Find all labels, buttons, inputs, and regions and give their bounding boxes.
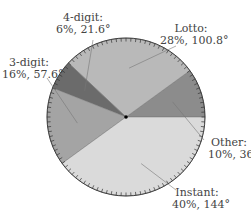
center-dot <box>124 115 128 119</box>
label-four-digit: 4-digit: 6%, 21.6° <box>56 12 110 36</box>
label-other: Other: 10%, 36° <box>208 137 250 161</box>
label-three-digit-value: 16%, 57.6° <box>2 69 56 81</box>
label-four-digit-value: 6%, 21.6° <box>56 24 110 36</box>
label-lotto-value: 28%, 100.8° <box>160 35 222 47</box>
label-lotto: Lotto: 28%, 100.8° <box>160 23 222 47</box>
label-three-digit: 3-digit: 16%, 57.6° <box>2 57 56 81</box>
label-other-value: 10%, 36° <box>208 149 250 161</box>
label-instant: Instant: 40%, 144° <box>172 187 222 211</box>
label-instant-value: 40%, 144° <box>172 199 222 211</box>
